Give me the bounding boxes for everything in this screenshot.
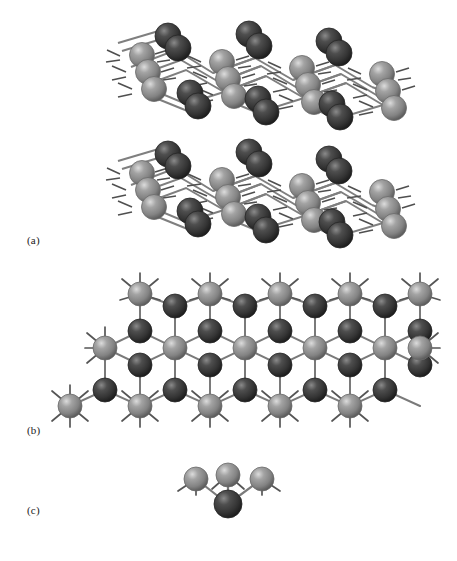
light-atom: [408, 282, 432, 306]
light-atom: [128, 394, 152, 418]
panel-b-top-view: [52, 273, 440, 427]
dark-atom: [326, 158, 352, 184]
light-atom: [303, 336, 327, 360]
dark-atom: [246, 151, 272, 177]
light-atom: [222, 84, 247, 109]
dark-atom: [198, 353, 222, 377]
light-atom: [142, 77, 167, 102]
dark-atom: [303, 378, 327, 402]
dark-atom: [165, 35, 191, 61]
dark-atom: [233, 294, 257, 318]
dark-atom: [373, 378, 397, 402]
dark-atom: [128, 319, 152, 343]
panel-a-side-view: [106, 21, 415, 248]
dark-atom: [338, 319, 362, 343]
dark-atom: [163, 378, 187, 402]
light-atom: [142, 195, 167, 220]
dark-atom: [214, 490, 242, 518]
light-atom: [233, 336, 257, 360]
light-atom: [268, 282, 292, 306]
panel-a-layer-2: [106, 139, 415, 248]
light-atom: [93, 336, 117, 360]
dark-atom: [326, 40, 352, 66]
dark-atom: [373, 294, 397, 318]
light-atom: [382, 214, 407, 239]
dark-atom: [268, 319, 292, 343]
light-atom: [382, 96, 407, 121]
figure-root: (a) (b) (c): [0, 0, 457, 561]
dark-atom: [93, 378, 117, 402]
light-atom: [408, 336, 432, 360]
panel-c-coordination-unit: [178, 463, 280, 518]
light-atom: [58, 394, 82, 418]
dark-atom: [185, 211, 211, 237]
dark-atom-group-lower: [177, 80, 353, 130]
panel-label-a: (a): [27, 234, 40, 246]
light-atom: [198, 282, 222, 306]
light-atom: [268, 394, 292, 418]
dark-atom: [338, 353, 362, 377]
light-atom: [373, 336, 397, 360]
light-atom: [250, 467, 274, 491]
dark-atom: [185, 93, 211, 119]
dark-atom: [233, 378, 257, 402]
structure-figure: [0, 0, 457, 561]
panel-label-b: (b): [27, 424, 40, 436]
dark-atom: [163, 294, 187, 318]
light-atom: [163, 336, 187, 360]
dark-atom: [253, 217, 279, 243]
dark-atom: [327, 222, 353, 248]
dark-atom: [253, 99, 279, 125]
dark-atom: [327, 104, 353, 130]
dark-atom: [268, 353, 292, 377]
light-atom: [198, 394, 222, 418]
dark-atom: [165, 153, 191, 179]
light-atom: [222, 202, 247, 227]
light-atom: [338, 282, 362, 306]
dark-atom: [246, 33, 272, 59]
dark-atom: [198, 319, 222, 343]
dark-atom: [128, 353, 152, 377]
panel-a-layer-1: [106, 21, 415, 130]
panel-label-c: (c): [27, 504, 40, 516]
light-atom: [128, 282, 152, 306]
light-atom: [338, 394, 362, 418]
dark-atom-group-lower: [177, 198, 353, 248]
light-atom: [184, 467, 208, 491]
dark-atom: [303, 294, 327, 318]
light-atom: [216, 463, 240, 487]
